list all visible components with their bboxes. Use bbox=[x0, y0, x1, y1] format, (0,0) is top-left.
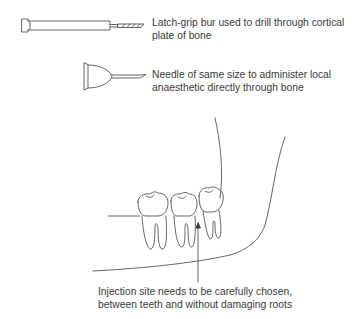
molar-teeth bbox=[138, 187, 223, 249]
injection-site-label-line1: Injection site needs to be carefully cho… bbox=[98, 286, 292, 299]
tooth-1 bbox=[138, 192, 168, 249]
injection-site-label: Injection site needs to be carefully cho… bbox=[98, 286, 292, 311]
latch-grip-bur-icon bbox=[22, 19, 144, 32]
needle-label: Needle of same size to administer local … bbox=[152, 69, 331, 94]
bur-label-line2: plate of bone bbox=[152, 30, 344, 43]
injection-site-arrow bbox=[196, 223, 200, 282]
needle-label-line1: Needle of same size to administer local bbox=[152, 69, 331, 82]
jaw-outline bbox=[93, 118, 285, 271]
needle-icon bbox=[84, 63, 146, 90]
tooth-2 bbox=[171, 193, 197, 248]
tooth-3 bbox=[199, 187, 223, 239]
bur-label: Latch-grip bur used to drill through cor… bbox=[152, 17, 344, 42]
illustration bbox=[0, 0, 359, 319]
needle-label-line2: anaesthetic directly through bone bbox=[152, 82, 331, 95]
injection-site-label-line2: between teeth and without damaging roots bbox=[98, 299, 292, 312]
bur-label-line1: Latch-grip bur used to drill through cor… bbox=[152, 17, 344, 30]
